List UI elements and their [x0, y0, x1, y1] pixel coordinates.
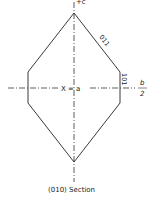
face-label-101: 101 — [120, 73, 128, 85]
section-diagram: +c X = a 011 101 b 2 (010) Section — [0, 0, 153, 201]
caption: (010) Section — [48, 186, 95, 194]
axis-top-label: +c — [76, 0, 86, 6]
axis-center-label: X = a — [61, 85, 80, 93]
axis-right-label-numerator: b — [140, 79, 145, 87]
axis-right-label-denominator: 2 — [140, 90, 145, 98]
